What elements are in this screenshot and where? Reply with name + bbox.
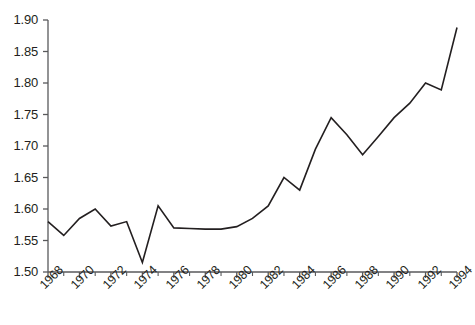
data-series-line xyxy=(48,28,457,263)
y-tick-label: 1.60 xyxy=(4,202,38,215)
y-tick-label: 1.90 xyxy=(4,13,38,26)
y-tick-label: 1.70 xyxy=(4,139,38,152)
y-tick-marks xyxy=(43,20,48,272)
y-tick-label: 1.85 xyxy=(4,45,38,58)
y-tick-label: 1.80 xyxy=(4,76,38,89)
y-tick-label: 1.50 xyxy=(4,265,38,278)
y-tick-label: 1.55 xyxy=(4,234,38,247)
y-tick-label: 1.75 xyxy=(4,108,38,121)
y-tick-label: 1.65 xyxy=(4,171,38,184)
axes-group xyxy=(48,20,457,272)
line-chart: 1.501.551.601.651.701.751.801.851.90 196… xyxy=(0,0,475,325)
